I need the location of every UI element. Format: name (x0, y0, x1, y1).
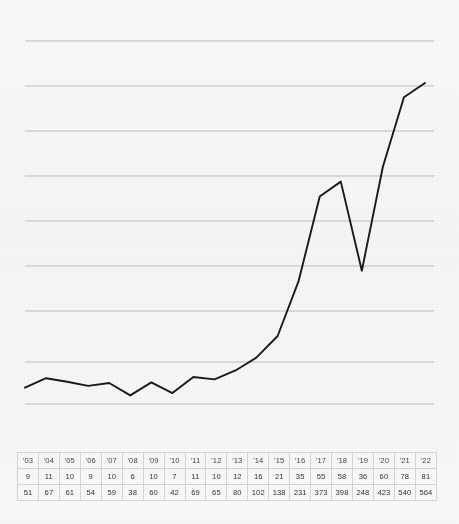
table-cell-years-13: '13 (227, 453, 248, 469)
table-cell-years-15: '15 (269, 453, 290, 469)
table-cell-series-a-07: 10 (101, 469, 122, 485)
table-cell-series-b-14: 102 (248, 485, 269, 501)
table-cell-years-22: '22 (415, 453, 436, 469)
table-cell-series-b-05: 61 (59, 485, 80, 501)
table-cell-series-b-18: 398 (332, 485, 353, 501)
table-cell-series-a-05: 10 (59, 469, 80, 485)
table-cell-years-07: '07 (101, 453, 122, 469)
table-row-years: '03'04'05'06'07'08'09'10'11'12'13'14'15'… (18, 453, 437, 469)
table-cell-series-b-21: 540 (394, 485, 415, 501)
chart-page: '03'04'05'06'07'08'09'10'11'12'13'14'15'… (0, 0, 459, 524)
table-cell-series-b-03: 51 (18, 485, 39, 501)
chart-data-table: '03'04'05'06'07'08'09'10'11'12'13'14'15'… (17, 452, 437, 501)
table-cell-series-b-13: 80 (227, 485, 248, 501)
table-cell-years-17: '17 (311, 453, 332, 469)
table-cell-years-20: '20 (373, 453, 394, 469)
table-cell-series-b-20: 423 (373, 485, 394, 501)
table-cell-series-a-09: 10 (143, 469, 164, 485)
table-row-series-b: 5167615459386042696580102138231373398248… (18, 485, 437, 501)
table-cell-series-a-22: 81 (415, 469, 436, 485)
table-cell-series-a-18: 58 (332, 469, 353, 485)
table-cell-series-a-19: 36 (353, 469, 374, 485)
table-cell-series-b-08: 38 (122, 485, 143, 501)
table-cell-series-b-19: 248 (353, 485, 374, 501)
table-cell-years-08: '08 (122, 453, 143, 469)
table-cell-series-b-09: 60 (143, 485, 164, 501)
table-cell-series-b-12: 65 (206, 485, 227, 501)
table-cell-series-b-16: 231 (290, 485, 311, 501)
table-cell-series-a-20: 60 (373, 469, 394, 485)
table-cell-years-03: '03 (18, 453, 39, 469)
table-cell-series-a-08: 6 (122, 469, 143, 485)
table-cell-series-a-06: 9 (80, 469, 101, 485)
table-cell-years-10: '10 (164, 453, 185, 469)
table-cell-series-b-04: 67 (38, 485, 59, 501)
table-cell-series-b-06: 54 (80, 485, 101, 501)
data-table-container: '03'04'05'06'07'08'09'10'11'12'13'14'15'… (17, 452, 437, 501)
table-cell-years-09: '09 (143, 453, 164, 469)
table-cell-series-a-16: 35 (290, 469, 311, 485)
table-cell-years-05: '05 (59, 453, 80, 469)
table-cell-series-b-17: 373 (311, 485, 332, 501)
table-cell-years-12: '12 (206, 453, 227, 469)
table-cell-series-a-21: 78 (394, 469, 415, 485)
table-cell-series-b-11: 69 (185, 485, 206, 501)
table-cell-years-06: '06 (80, 453, 101, 469)
table-cell-years-21: '21 (394, 453, 415, 469)
table-row-series-a: 911109106107111012162135555836607881 (18, 469, 437, 485)
table-cell-series-a-03: 9 (18, 469, 39, 485)
table-cell-series-a-10: 7 (164, 469, 185, 485)
table-cell-series-a-17: 55 (311, 469, 332, 485)
table-cell-series-b-10: 42 (164, 485, 185, 501)
table-cell-years-18: '18 (332, 453, 353, 469)
table-cell-series-a-11: 11 (185, 469, 206, 485)
table-cell-series-a-15: 21 (269, 469, 290, 485)
table-body: '03'04'05'06'07'08'09'10'11'12'13'14'15'… (18, 453, 437, 501)
table-cell-series-a-12: 10 (206, 469, 227, 485)
line-chart-plot (0, 0, 459, 445)
table-cell-series-b-15: 138 (269, 485, 290, 501)
table-cell-years-04: '04 (38, 453, 59, 469)
table-cell-years-11: '11 (185, 453, 206, 469)
table-cell-series-a-14: 16 (248, 469, 269, 485)
table-cell-series-b-07: 59 (101, 485, 122, 501)
table-cell-series-a-04: 11 (38, 469, 59, 485)
table-cell-years-16: '16 (290, 453, 311, 469)
table-cell-years-14: '14 (248, 453, 269, 469)
table-cell-series-a-13: 12 (227, 469, 248, 485)
gridlines (25, 41, 434, 404)
table-cell-years-19: '19 (353, 453, 374, 469)
series-b-line (25, 83, 425, 395)
table-cell-series-b-22: 564 (415, 485, 436, 501)
